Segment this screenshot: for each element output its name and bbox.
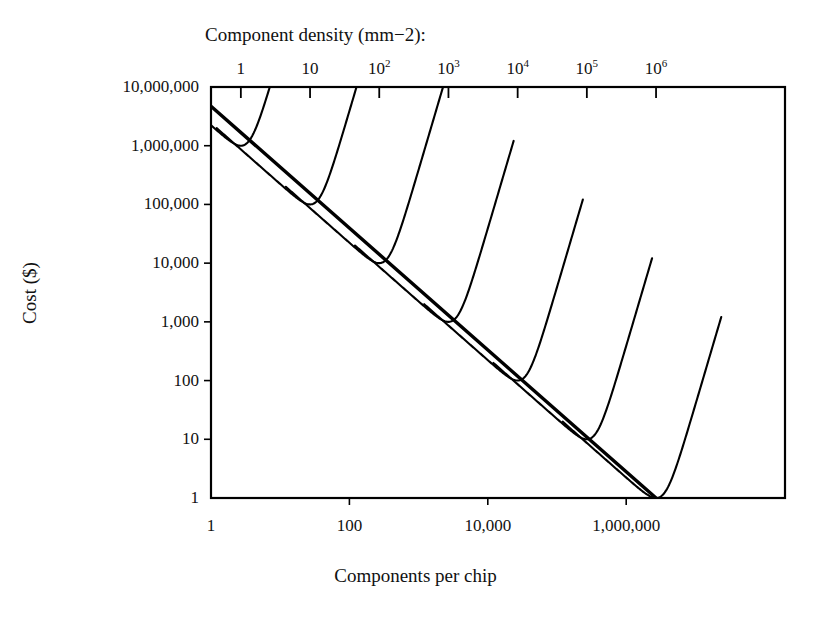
y-tick-label: 1,000 (161, 312, 199, 332)
y-tick-label: 10,000 (152, 253, 199, 273)
y-tick-label: 100 (174, 371, 200, 391)
cost-curve (286, 85, 445, 263)
top-axis-tick-label: 105 (576, 59, 599, 79)
y-axis-title: Cost ($) (19, 213, 41, 373)
top-tick-mantissa: 10 (576, 59, 593, 78)
top-tick-mantissa: 10 (437, 59, 454, 78)
top-axis-tick-label: 10 (302, 59, 319, 79)
top-tick-exponent: 4 (523, 57, 529, 69)
x-tick-label: 1,000,000 (592, 516, 660, 536)
x-tick-label: 1 (207, 516, 216, 536)
x-tick-label: 10,000 (464, 516, 511, 536)
y-tick-label: 10,000,000 (123, 77, 200, 97)
x-tick-label: 100 (337, 516, 363, 536)
cost-curves (210, 85, 722, 498)
y-tick-label: 100,000 (144, 194, 199, 214)
top-tick-mantissa: 10 (506, 59, 523, 78)
y-tick-label: 1 (191, 488, 200, 508)
top-axis-title: Component density (mm−2): (205, 24, 426, 46)
cost-vs-components-chart: Component density (mm−2): Cost ($) Compo… (0, 0, 831, 625)
top-tick-exponent: 5 (593, 57, 599, 69)
cost-curve (355, 141, 514, 322)
y-tick-label: 1,000,000 (131, 136, 199, 156)
axis-frame (211, 87, 785, 498)
axis-ticks (204, 87, 656, 505)
top-axis-tick-label: 106 (645, 59, 668, 79)
top-tick-mantissa: 10 (368, 59, 385, 78)
top-axis-tick-label: 104 (506, 59, 529, 79)
top-tick-exponent: 2 (385, 57, 391, 69)
y-tick-label: 10 (182, 429, 199, 449)
cost-curve (424, 200, 583, 381)
top-tick-exponent: 3 (454, 57, 460, 69)
envelope-line (211, 106, 656, 498)
top-tick-mantissa: 1 (237, 59, 246, 78)
top-axis-tick-label: 103 (437, 59, 460, 79)
top-tick-mantissa: 10 (302, 59, 319, 78)
top-tick-mantissa: 10 (645, 59, 662, 78)
top-axis-tick-label: 1 (237, 59, 246, 79)
cost-curve (563, 317, 722, 498)
x-axis-title: Components per chip (0, 565, 831, 587)
cost-curve (493, 258, 652, 439)
top-axis-tick-label: 102 (368, 59, 391, 79)
top-tick-exponent: 6 (662, 57, 668, 69)
